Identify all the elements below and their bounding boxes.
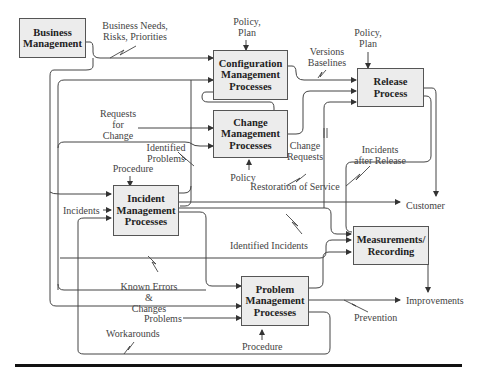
label-identified-incidents: Identified Incidents xyxy=(226,240,312,251)
label-identified-problems: Identified Problems xyxy=(146,142,186,164)
label-customer: Customer xyxy=(406,200,445,211)
label-restoration-of-service: Restoration of Service xyxy=(245,181,345,192)
label-procedure-incident: Procedure xyxy=(110,163,156,174)
bottom-rule xyxy=(15,364,245,367)
label-incidents-after-release: Incidents after Release xyxy=(350,144,410,166)
label-improvements: Improvements xyxy=(406,295,464,306)
configuration-management-box: Configuration Management Processes xyxy=(213,50,288,100)
measurements-recording-box: Measurements/ Recording xyxy=(353,226,429,265)
label-versions-baselines: Versions Baselines xyxy=(304,46,350,68)
label-business-needs: Business Needs, Risks, Priorities xyxy=(100,20,170,42)
label-known-errors-changes: Known Errors & Changes xyxy=(116,281,182,314)
label-policy-plan-config: Policy, Plan xyxy=(230,16,264,38)
problem-management-box: Problem Management Processes xyxy=(241,276,309,326)
label-prevention: Prevention xyxy=(354,312,397,323)
label-requests-for-change: Requests for Change xyxy=(100,108,136,141)
change-management-box: Change Management Processes xyxy=(213,110,288,158)
business-management-box: Business Management xyxy=(19,18,86,58)
label-problems: Problems xyxy=(144,313,182,324)
label-change-requests: Change Requests xyxy=(285,140,325,162)
label-incidents: Incidents xyxy=(63,205,100,216)
label-workarounds: Workarounds xyxy=(106,328,160,339)
release-process-box: Release Process xyxy=(357,68,424,107)
incident-management-box: Incident Management Processes xyxy=(113,185,179,236)
label-procedure-problem: Procedure xyxy=(242,341,283,352)
label-policy-plan-release: Policy, Plan xyxy=(351,27,385,49)
bottom-rule xyxy=(240,364,462,367)
